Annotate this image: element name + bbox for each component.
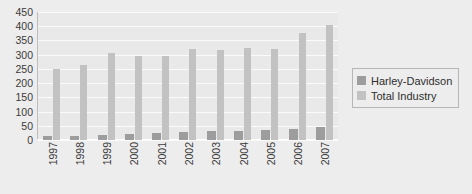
legend-item: Total Industry (357, 88, 452, 103)
bar-total-industry (53, 69, 60, 140)
year-group (256, 12, 283, 140)
bar-total-industry (244, 48, 251, 140)
x-tick-label: 2000 (128, 142, 140, 165)
bar-total-industry (135, 56, 142, 140)
bar-harley-davidson (179, 132, 188, 140)
bar-total-industry (108, 53, 115, 140)
bar-chart: 450400350300250200150100500 199719981999… (0, 0, 472, 194)
year-group (65, 12, 92, 140)
bar-total-industry (217, 50, 224, 140)
y-tick-label: 100 (15, 107, 33, 117)
y-tick-label: 250 (15, 64, 33, 74)
year-group (93, 12, 120, 140)
bar-total-industry (189, 49, 196, 140)
legend-swatch-icon (357, 91, 366, 100)
x-tick-label: 2004 (238, 142, 250, 165)
bar-harley-davidson (261, 130, 270, 140)
x-tick-label: 2007 (319, 142, 331, 165)
year-group (283, 12, 310, 140)
bar-total-industry (162, 56, 169, 140)
legend-label: Harley-Davidson (371, 75, 452, 87)
x-tick-label: 1997 (47, 142, 59, 165)
x-axis: 1997199819992000200120022003200420052006… (38, 142, 338, 194)
x-tick-label: 2005 (265, 142, 277, 165)
y-axis: 450400350300250200150100500 (0, 12, 33, 140)
y-tick-label: 0 (27, 135, 33, 145)
x-tick-label: 2006 (292, 142, 304, 165)
y-tick-label: 350 (15, 35, 33, 45)
bar-harley-davidson (234, 131, 243, 140)
x-tick-label: 1998 (74, 142, 86, 165)
year-group (174, 12, 201, 140)
legend-swatch-icon (357, 76, 366, 85)
x-tick-label: 2002 (183, 142, 195, 165)
year-group (229, 12, 256, 140)
bar-harley-davidson (43, 136, 52, 140)
bar-harley-davidson (207, 131, 216, 140)
y-tick-label: 200 (15, 78, 33, 88)
x-tick-label: 2003 (210, 142, 222, 165)
bar-harley-davidson (70, 136, 79, 140)
year-group (311, 12, 338, 140)
legend-label: Total Industry (371, 90, 436, 102)
gridline (38, 140, 338, 141)
y-tick-label: 150 (15, 92, 33, 102)
y-tick-label: 300 (15, 50, 33, 60)
bar-total-industry (326, 25, 333, 140)
bar-harley-davidson (289, 129, 298, 140)
year-group (147, 12, 174, 140)
bar-total-industry (80, 65, 87, 140)
x-tick-label: 1999 (101, 142, 113, 165)
bar-harley-davidson (316, 127, 325, 140)
bar-total-industry (271, 49, 278, 140)
bar-total-industry (299, 33, 306, 140)
y-tick-label: 50 (21, 121, 33, 131)
y-tick-label: 400 (15, 21, 33, 31)
chart-legend: Harley-DavidsonTotal Industry (352, 68, 459, 108)
bar-harley-davidson (152, 133, 161, 140)
year-group (120, 12, 147, 140)
year-group (202, 12, 229, 140)
y-tick-label: 450 (15, 7, 33, 17)
bars-layer (38, 12, 338, 140)
year-group (38, 12, 65, 140)
x-tick-label: 2001 (156, 142, 168, 165)
bar-harley-davidson (98, 135, 107, 140)
legend-item: Harley-Davidson (357, 73, 452, 88)
bar-harley-davidson (125, 134, 134, 140)
